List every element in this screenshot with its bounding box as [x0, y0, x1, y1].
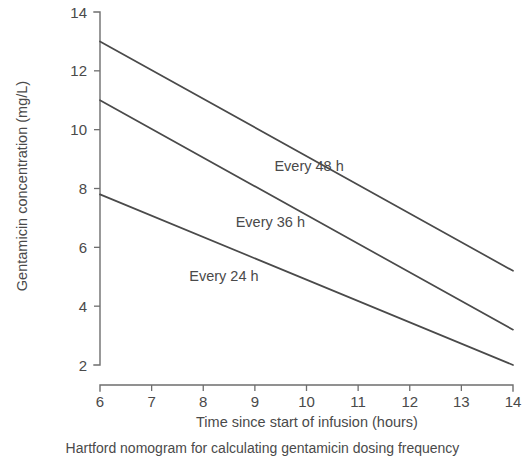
series-label-every-36-h: Every 36 h: [236, 214, 305, 230]
series-line-every-24-h: [100, 194, 513, 365]
x-tick-label-10: 10: [298, 393, 315, 410]
x-tick-label-12: 12: [401, 393, 418, 410]
x-tick-label-8: 8: [199, 393, 207, 410]
y-tick-label-12: 12: [70, 62, 87, 79]
series-label-every-24-h: Every 24 h: [189, 268, 258, 284]
figure-caption: Hartford nomogram for calculating gentam…: [0, 440, 525, 456]
y-tick-label-6: 6: [79, 239, 87, 256]
y-tick-label-10: 10: [70, 121, 87, 138]
y-tick-label-14: 14: [70, 4, 87, 21]
y-axis-label: Gentamicin concentration (mg/L): [14, 16, 30, 356]
y-tick-label-4: 4: [79, 298, 87, 315]
x-tick-label-14: 14: [505, 393, 522, 410]
x-axis-label: Time since start of infusion (hours): [100, 414, 514, 430]
x-tick-label-9: 9: [251, 393, 259, 410]
series-label-every-48-h: Every 48 h: [274, 158, 343, 174]
x-tick-label-7: 7: [147, 393, 155, 410]
x-tick-label-13: 13: [453, 393, 470, 410]
figure-container: 246810121467891011121314Every 48 hEvery …: [0, 0, 525, 463]
series-line-every-36-h: [100, 100, 513, 329]
series-line-every-48-h: [100, 41, 513, 270]
nomogram-chart: 246810121467891011121314Every 48 hEvery …: [0, 0, 525, 463]
y-tick-label-2: 2: [79, 357, 87, 374]
x-tick-label-6: 6: [96, 393, 104, 410]
x-tick-label-11: 11: [350, 393, 366, 410]
y-tick-label-8: 8: [79, 180, 87, 197]
